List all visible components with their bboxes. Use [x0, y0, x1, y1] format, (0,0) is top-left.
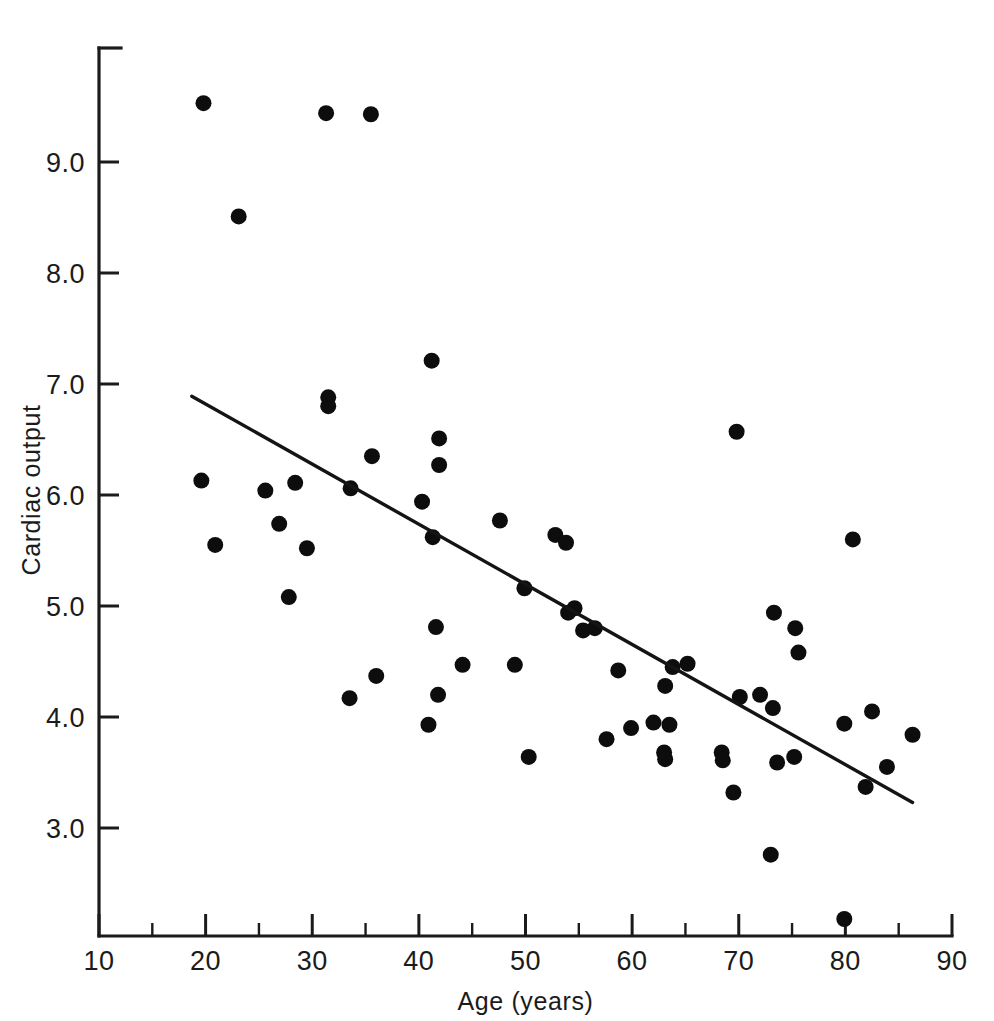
data-point: [864, 703, 880, 719]
data-point: [645, 715, 661, 731]
data-point: [765, 700, 781, 716]
data-point: [836, 716, 852, 732]
data-point: [363, 106, 379, 122]
data-point: [575, 622, 591, 638]
data-point: [657, 751, 673, 767]
data-point: [766, 605, 782, 621]
y-tick-label: 3.0: [46, 814, 85, 844]
x-tick-label: 90: [936, 946, 967, 976]
data-point: [769, 755, 785, 771]
data-point: [364, 448, 380, 464]
data-point: [836, 911, 852, 927]
data-point: [661, 717, 677, 733]
data-point: [680, 656, 696, 672]
data-point: [507, 657, 523, 673]
x-axis-title: Age (years): [458, 987, 594, 1015]
data-point: [368, 668, 384, 684]
data-point: [858, 779, 874, 795]
data-point: [430, 687, 446, 703]
y-axis-tick-labels: 3.04.05.06.07.08.09.0: [46, 148, 85, 844]
data-points: [193, 95, 920, 927]
data-point: [420, 717, 436, 733]
data-point: [599, 731, 615, 747]
x-tick-label: 10: [83, 946, 114, 976]
data-point: [193, 473, 209, 489]
data-point: [790, 645, 806, 661]
data-point: [318, 105, 334, 121]
data-point: [299, 540, 315, 556]
data-point: [845, 531, 861, 547]
y-axis-title: Cardiac output: [17, 405, 45, 576]
data-point: [431, 457, 447, 473]
y-tick-label: 5.0: [46, 592, 85, 622]
x-tick-label: 50: [510, 946, 541, 976]
regression-line: [192, 396, 913, 802]
x-tick-label: 70: [723, 946, 754, 976]
data-point: [257, 483, 273, 499]
data-point: [715, 752, 731, 768]
data-point: [787, 620, 803, 636]
data-point: [271, 516, 287, 532]
data-point: [414, 494, 430, 510]
scatter-plot: 3.04.05.06.07.08.09.0 102030405060708090…: [0, 0, 994, 1021]
y-tick-label: 4.0: [46, 703, 85, 733]
data-point: [320, 398, 336, 414]
figure-container: 3.04.05.06.07.08.09.0 102030405060708090…: [0, 0, 994, 1021]
data-point: [428, 619, 444, 635]
y-axis-ticks: [99, 162, 119, 828]
x-tick-label: 80: [830, 946, 861, 976]
data-point: [195, 95, 211, 111]
data-point: [231, 208, 247, 224]
data-point: [558, 535, 574, 551]
x-axis-tick-labels: 102030405060708090: [83, 946, 967, 976]
data-point: [455, 657, 471, 673]
data-point: [281, 589, 297, 605]
data-point: [431, 430, 447, 446]
data-point: [492, 513, 508, 529]
x-tick-label: 20: [190, 946, 221, 976]
data-point: [725, 784, 741, 800]
x-axis-ticks: [99, 914, 952, 936]
data-point: [287, 475, 303, 491]
y-tick-label: 6.0: [46, 481, 85, 511]
data-point: [623, 720, 639, 736]
data-point: [879, 759, 895, 775]
data-point: [729, 424, 745, 440]
y-tick-label: 9.0: [46, 148, 85, 178]
x-tick-label: 60: [617, 946, 648, 976]
data-point: [657, 678, 673, 694]
data-point: [207, 537, 223, 553]
x-tick-label: 30: [297, 946, 328, 976]
y-tick-label: 7.0: [46, 370, 85, 400]
data-point: [521, 749, 537, 765]
data-point: [786, 749, 802, 765]
x-tick-label: 40: [403, 946, 434, 976]
data-point: [905, 727, 921, 743]
plot-axes: [99, 48, 952, 936]
data-point: [342, 690, 358, 706]
y-tick-label: 8.0: [46, 259, 85, 289]
data-point: [610, 662, 626, 678]
data-point: [424, 353, 440, 369]
data-point: [752, 687, 768, 703]
data-point: [763, 847, 779, 863]
